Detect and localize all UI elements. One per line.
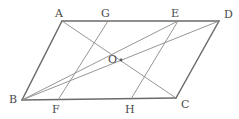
label-point-b: B — [9, 94, 17, 105]
label-point-f: F — [52, 104, 60, 115]
geometry-figure: A G E D O B F H C — [0, 0, 239, 119]
figure-canvas — [0, 0, 239, 119]
label-point-o: O — [108, 54, 117, 65]
label-point-g: G — [101, 8, 110, 19]
label-point-e: E — [171, 8, 179, 19]
edge-CB — [22, 98, 176, 100]
center-point-o-dot — [120, 59, 123, 62]
edge-BA — [22, 21, 62, 100]
label-point-d: D — [224, 9, 233, 20]
label-point-c: C — [181, 99, 189, 110]
label-point-h: H — [125, 104, 135, 115]
edge-DC — [176, 21, 219, 98]
label-point-a: A — [55, 8, 63, 19]
diagonal-AC — [62, 21, 176, 98]
